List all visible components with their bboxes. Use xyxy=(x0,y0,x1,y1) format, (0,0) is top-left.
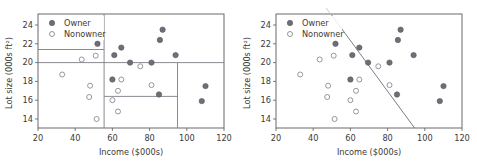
data-point-owner xyxy=(173,52,178,57)
data-point-nonowner xyxy=(317,57,322,62)
left-x-tick-120: 120 xyxy=(216,133,232,143)
two-panel-scatter-figure: Lot size (000s ft²) 14 16 18 20 22 24 xyxy=(0,0,477,162)
left-x-tick-40: 40 xyxy=(70,133,80,143)
data-point-owner xyxy=(127,60,132,65)
left-x-axis-title: Income ($000s) xyxy=(99,147,163,157)
left-panel-canvas: Lot size (000s ft²) 14 16 18 20 22 24 xyxy=(0,0,238,162)
right-x-tick-40: 40 xyxy=(308,133,318,143)
right-x-tick-20: 20 xyxy=(271,133,281,143)
right-y-tick-14: 14 xyxy=(261,114,271,124)
data-point-nonowner xyxy=(119,77,124,82)
right-y-tick-labels: 14 16 18 20 22 24 xyxy=(261,20,271,124)
legend-marker-owner-icon xyxy=(49,20,54,25)
right-x-tick-80: 80 xyxy=(382,133,392,143)
right-y-tick-24: 24 xyxy=(261,20,271,30)
data-point-owner xyxy=(112,52,117,57)
right-legend: Owner Nonowner xyxy=(282,16,344,40)
data-point-nonowner xyxy=(325,95,330,100)
legend-marker-owner-icon xyxy=(287,20,292,25)
left-y-tick-18: 18 xyxy=(23,76,33,86)
data-point-owner xyxy=(394,92,399,97)
left-legend: Owner Nonowner xyxy=(44,16,106,40)
left-series-nonowner xyxy=(60,53,154,121)
data-point-nonowner xyxy=(326,83,331,88)
data-point-owner xyxy=(119,45,124,50)
right-series-owner xyxy=(333,27,446,104)
data-point-owner xyxy=(157,37,162,42)
left-y-tick-14: 14 xyxy=(23,114,33,124)
right-y-tick-16: 16 xyxy=(261,95,271,105)
data-point-owner xyxy=(357,45,362,50)
data-point-owner xyxy=(350,52,355,57)
left-x-tick-60: 60 xyxy=(107,133,117,143)
legend-marker-nonowner-icon xyxy=(50,32,55,37)
data-point-nonowner xyxy=(387,83,392,88)
data-point-owner xyxy=(110,77,115,82)
left-panel: Lot size (000s ft²) 14 16 18 20 22 24 xyxy=(0,0,238,162)
data-point-owner xyxy=(348,77,353,82)
data-point-owner xyxy=(199,98,204,103)
data-point-nonowner xyxy=(60,72,65,77)
data-point-owner xyxy=(365,60,370,65)
data-point-nonowner xyxy=(149,83,154,88)
data-point-owner xyxy=(398,27,403,32)
data-point-nonowner xyxy=(79,57,84,62)
right-x-axis-title: Income ($000s) xyxy=(337,147,401,157)
data-point-owner xyxy=(203,83,208,88)
left-x-tick-labels: 20 40 60 80 100 120 xyxy=(33,133,232,143)
right-x-tick-labels: 20 40 60 80 100 120 xyxy=(271,133,470,143)
right-y-tick-marks xyxy=(273,25,276,119)
data-point-nonowner xyxy=(94,117,99,122)
data-point-nonowner xyxy=(331,53,336,58)
data-point-owner xyxy=(441,83,446,88)
left-y-tick-16: 16 xyxy=(23,95,33,105)
data-point-nonowner xyxy=(138,64,143,69)
right-x-tick-100: 100 xyxy=(417,133,433,143)
legend-marker-nonowner-icon xyxy=(288,32,293,37)
left-x-tick-100: 100 xyxy=(179,133,195,143)
right-y-tick-20: 20 xyxy=(261,57,271,67)
left-series-owner xyxy=(95,27,208,104)
data-point-nonowner xyxy=(116,88,121,93)
left-y-tick-20: 20 xyxy=(23,57,33,67)
data-point-nonowner xyxy=(87,95,92,100)
data-point-nonowner xyxy=(110,98,115,103)
left-y-tick-22: 22 xyxy=(23,39,33,49)
data-point-nonowner xyxy=(376,64,381,69)
data-point-owner xyxy=(411,52,416,57)
data-point-nonowner xyxy=(357,77,362,82)
legend-label-nonowner: Nonowner xyxy=(302,29,344,39)
right-y-tick-22: 22 xyxy=(261,39,271,49)
data-point-nonowner xyxy=(354,109,359,114)
right-panel-canvas: Lot size (000s ft²) 14 16 18 20 22 24 xyxy=(238,0,477,162)
right-x-tick-120: 120 xyxy=(454,133,470,143)
left-x-tick-80: 80 xyxy=(144,133,154,143)
data-point-nonowner xyxy=(93,53,98,58)
data-point-owner xyxy=(437,98,442,103)
right-y-tick-18: 18 xyxy=(261,76,271,86)
legend-label-owner: Owner xyxy=(302,18,329,28)
data-point-nonowner xyxy=(332,117,337,122)
data-point-owner xyxy=(156,92,161,97)
data-point-nonowner xyxy=(354,88,359,93)
left-y-axis-title: Lot size (000s ft²) xyxy=(4,37,14,109)
data-point-owner xyxy=(395,37,400,42)
left-y-tick-labels: 14 16 18 20 22 24 xyxy=(23,20,33,124)
right-x-tick-60: 60 xyxy=(345,133,355,143)
right-panel: Lot size (000s ft²) 14 16 18 20 22 24 xyxy=(238,0,476,162)
right-y-axis-title: Lot size (000s ft²) xyxy=(242,37,252,109)
data-point-owner xyxy=(333,41,338,46)
legend-label-owner: Owner xyxy=(64,18,91,28)
data-point-nonowner xyxy=(348,98,353,103)
data-point-owner xyxy=(149,60,154,65)
left-x-tick-20: 20 xyxy=(33,133,43,143)
left-y-tick-24: 24 xyxy=(23,20,33,30)
data-point-nonowner xyxy=(116,109,121,114)
legend-label-nonowner: Nonowner xyxy=(64,29,106,39)
data-point-owner xyxy=(387,60,392,65)
data-point-nonowner xyxy=(88,83,93,88)
data-point-nonowner xyxy=(298,72,303,77)
right-series-nonowner xyxy=(298,53,392,121)
data-point-owner xyxy=(160,27,165,32)
data-point-owner xyxy=(95,41,100,46)
